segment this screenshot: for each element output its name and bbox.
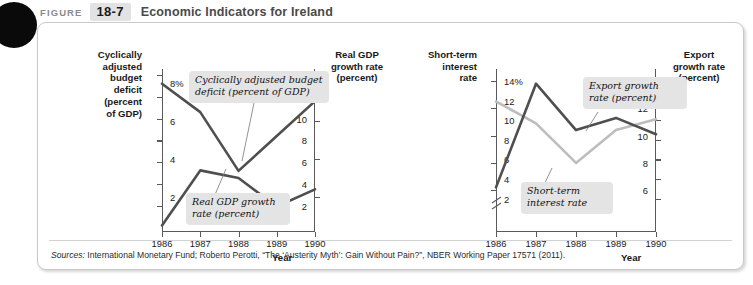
left-chart-left-axis-title: Cyclically adjusted budget deficit (perc… <box>58 49 142 119</box>
tick-rx-1989 <box>616 232 617 237</box>
series-short-term-interest-rate <box>496 102 656 163</box>
panel-divider <box>49 240 732 241</box>
figure-title: Economic Indicators for Ireland <box>141 5 333 19</box>
chart-left: Cyclically adjusted budget deficit (perc… <box>58 47 388 243</box>
tick-x-1988 <box>239 232 240 237</box>
tick-right-2 <box>315 197 320 198</box>
callout-real-gdp-growth: Real GDP growth rate (percent) <box>186 193 290 225</box>
source-text: International Monetary Fund; Roberto Per… <box>85 250 565 260</box>
chart-right: Short-term interest rate Export growth r… <box>393 47 733 243</box>
tick-rx-1988 <box>576 232 577 237</box>
tick-right-6 <box>315 121 320 122</box>
tick-x-1989 <box>277 232 278 237</box>
tick-r-right-8 <box>656 140 661 141</box>
source-note: Sources: International Monetary Fund; Ro… <box>51 250 731 261</box>
tick-x-1986 <box>162 232 163 237</box>
leader-line-export <box>586 112 598 131</box>
tick-x-1987 <box>200 232 201 237</box>
tick-x-1990 <box>315 232 316 237</box>
callout-short-term-interest: Short-term interest rate <box>521 182 613 214</box>
tick-rx-1986 <box>496 232 497 237</box>
figure-number-badge: 18-7 <box>90 3 131 21</box>
figure-root: FIGURE 18-7 Economic Indicators for Irel… <box>0 0 753 285</box>
figure-panel: Cyclically adjusted budget deficit (perc… <box>37 22 744 270</box>
tick-r-right-4 <box>656 179 661 180</box>
chapter-bleed-dot <box>0 2 37 48</box>
right-chart-left-axis-title: Short-term interest rate <box>393 49 477 84</box>
tick-r-right-6 <box>656 159 661 160</box>
callout-budget-deficit: Cyclically adjusted budget deficit (perc… <box>189 71 329 103</box>
callout-export-growth: Export growth rate (percent) <box>583 77 687 109</box>
figure-label: FIGURE <box>40 7 83 18</box>
tick-rx-1990 <box>656 232 657 237</box>
tick-r-right-2 <box>656 199 661 200</box>
leader-line-deficit <box>242 103 254 161</box>
figure-header: FIGURE 18-7 Economic Indicators for Irel… <box>40 3 333 21</box>
tick-rx-1987 <box>536 232 537 237</box>
source-label: Sources: <box>51 250 85 260</box>
tick-right-4 <box>315 159 320 160</box>
y-axis-break-icon <box>492 197 501 209</box>
tick-r-right-10 <box>656 120 661 121</box>
left-chart-right-axis-title: Real GDP growth rate (percent) <box>320 49 394 84</box>
